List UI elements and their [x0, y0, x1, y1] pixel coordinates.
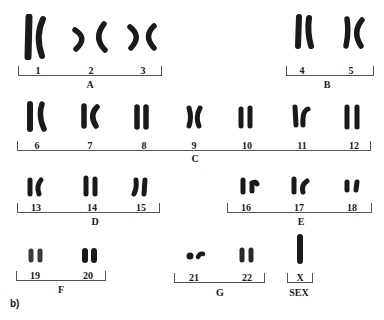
chromosome-label-11: 11	[290, 140, 314, 151]
chromosome-label-2: 2	[79, 65, 103, 76]
chromosome-pair-17	[289, 176, 311, 196]
panel-label: b)	[10, 298, 19, 309]
chromosome-pair-14	[80, 174, 100, 198]
chromosome-pair-7	[78, 103, 102, 129]
chromosome-pair-19	[26, 248, 46, 264]
chromosome-label-13: 13	[24, 202, 48, 213]
chromosome-pair-3	[126, 22, 158, 52]
chromosome-pair-4	[292, 14, 318, 50]
chromosome-label-21: 21	[182, 272, 206, 283]
chromosome-label-x: X	[288, 272, 312, 283]
chromosome-label-4: 4	[290, 65, 314, 76]
chromosome-pair-2	[70, 20, 110, 54]
chromosome-label-10: 10	[235, 140, 259, 151]
chromosome-label-22: 22	[235, 272, 259, 283]
chromosome-label-3: 3	[131, 65, 155, 76]
chromosome-label-18: 18	[340, 202, 364, 213]
chromosome-pair-9	[184, 105, 204, 129]
chromosome-pair-1	[20, 14, 50, 60]
chromosome-label-6: 6	[25, 140, 49, 151]
chromosome-pair-13	[24, 176, 46, 198]
chromosome-pair-12	[342, 104, 362, 130]
group-f-label: F	[46, 284, 76, 295]
chromosome-label-7: 7	[78, 140, 102, 151]
chromosome-label-14: 14	[80, 202, 104, 213]
chromosome-label-16: 16	[234, 202, 258, 213]
chromosome-pair-15	[130, 176, 150, 198]
chromosome-label-19: 19	[23, 270, 47, 281]
chromosome-label-9: 9	[182, 140, 206, 151]
group-g-label: G	[205, 287, 235, 298]
chromosome-pair-10	[236, 105, 256, 129]
chromosome-pair-5	[340, 16, 366, 50]
chromosome-pair-22	[237, 246, 257, 264]
group-e-label: E	[286, 216, 316, 227]
group-d-label: D	[80, 216, 110, 227]
chromosome-pair-8	[132, 104, 152, 130]
group-b-label: B	[312, 79, 342, 90]
chromosome-pair-11	[290, 104, 312, 128]
chromosome-pair-16	[238, 176, 260, 196]
chromosome-pair-21	[184, 250, 206, 262]
chromosome-label-12: 12	[342, 140, 366, 151]
chromosome-pair-6	[24, 101, 50, 133]
chromosome-label-5: 5	[339, 65, 363, 76]
chromosome-pair-18	[342, 178, 362, 194]
chromosome-x	[294, 233, 306, 265]
chromosome-label-20: 20	[76, 270, 100, 281]
chromosome-label-1: 1	[26, 65, 50, 76]
sex-group-label: SEX	[284, 287, 314, 298]
chromosome-label-15: 15	[129, 202, 153, 213]
group-a-label: A	[75, 79, 105, 90]
group-c-label: C	[180, 153, 210, 164]
chromosome-label-17: 17	[287, 202, 311, 213]
chromosome-label-8: 8	[132, 140, 156, 151]
chromosome-pair-20	[80, 248, 100, 264]
